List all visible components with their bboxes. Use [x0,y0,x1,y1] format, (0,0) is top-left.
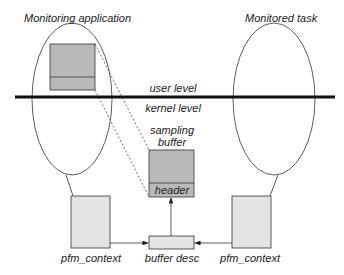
left-pfm-context-label: pfm_context [61,252,121,265]
monitored-task-ellipse [233,23,315,175]
left-pfm-context-box [71,196,110,248]
right-pfm-context-box [232,196,271,248]
mapping-dashed-line-bottom [95,90,149,197]
buffer-desc-box [149,236,194,249]
user-buffer-mapping [50,44,95,90]
header-label: header [155,184,189,197]
buffer-desc-label: buffer desc [145,252,199,265]
sampling-buffer-label-2: buffer [158,136,186,149]
monitored-task-label: Monitored task [245,12,317,25]
user-level-label: user level [149,82,196,95]
right-pfm-context-label: pfm_context [220,252,280,265]
kernel-level-label: kernel level [145,102,201,115]
monitoring-application-label: Monitoring application [24,12,131,25]
